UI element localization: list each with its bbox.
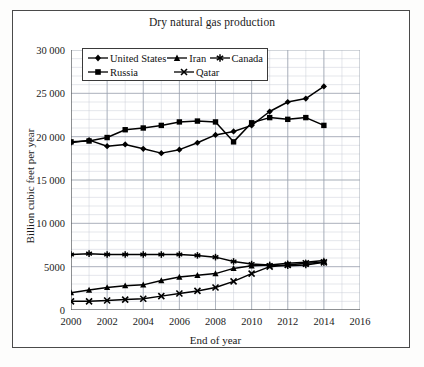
x-tick-label: 2010 (241, 316, 262, 327)
diamond-marker (230, 128, 236, 134)
legend-item-qatar: Qatar (173, 65, 243, 79)
diamond-marker (104, 143, 110, 149)
x-tick-label: 2012 (277, 316, 298, 327)
square-marker (213, 119, 218, 124)
x-tick-label: 2008 (205, 316, 226, 327)
plot-area (71, 50, 360, 310)
diamond-marker (158, 150, 164, 156)
legend-row-2: Russia Qatar (87, 65, 263, 79)
legend-item-russia: Russia (87, 65, 173, 79)
x-tick-label: 2006 (169, 316, 190, 327)
square-marker (303, 115, 308, 120)
x-tick-label: 2002 (97, 316, 118, 327)
y-axis-title: Billion cubic feet per year (24, 86, 36, 286)
chart-figure: Dry natural gas production 0500010 00015… (0, 0, 424, 367)
square-marker (195, 118, 200, 123)
legend-label-russia: Russia (109, 67, 138, 78)
legend-row-1: United States Iran Canada (87, 51, 263, 65)
square-marker (249, 120, 254, 125)
cross-marker-icon (173, 66, 195, 78)
diamond-marker (122, 141, 128, 147)
square-marker (104, 135, 109, 140)
plot-svg (71, 50, 360, 310)
x-tick-label: 2016 (350, 316, 371, 327)
x-tick-label: 2014 (313, 316, 334, 327)
legend-item-united-states: United States (87, 51, 166, 65)
diamond-marker (285, 99, 291, 105)
legend-label-canada: Canada (231, 53, 264, 64)
chart-legend: United States Iran Canada (82, 48, 268, 81)
square-marker (71, 139, 74, 144)
square-marker (285, 117, 290, 122)
legend-label-qatar: Qatar (195, 67, 219, 78)
square-marker (231, 139, 236, 144)
square-marker (321, 123, 326, 128)
x-tick-label: 2004 (133, 316, 154, 327)
x-tick-label: 2000 (61, 316, 82, 327)
triangle-marker-icon (166, 52, 188, 64)
square-marker (159, 123, 164, 128)
diamond-marker (176, 147, 182, 153)
square-marker (86, 138, 91, 143)
series-qatar (71, 259, 327, 304)
square-marker (122, 127, 127, 132)
square-marker (267, 115, 272, 120)
legend-item-iran: Iran (166, 51, 208, 65)
square-marker-icon (87, 66, 109, 78)
asterisk-marker-icon (209, 52, 231, 64)
square-marker (177, 119, 182, 124)
square-marker (141, 125, 146, 130)
x-axis-title: End of year (71, 334, 360, 346)
diamond-marker (194, 140, 200, 146)
diamond-marker-icon (87, 52, 109, 64)
legend-label-iran: Iran (188, 53, 206, 64)
diamond-marker (212, 132, 218, 138)
legend-label-united-states: United States (109, 53, 166, 64)
diamond-marker (140, 146, 146, 152)
legend-item-canada: Canada (209, 51, 264, 65)
